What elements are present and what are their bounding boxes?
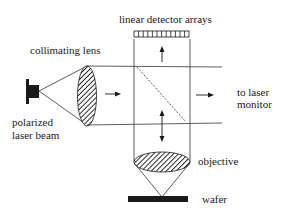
- label-polarized: polarized: [12, 116, 53, 128]
- label-objective: objective: [198, 155, 238, 167]
- arrow-bidirectional: [160, 110, 165, 142]
- collimated-beam: [87, 66, 222, 125]
- arrow-up-detector: [160, 46, 165, 62]
- label-collimating-lens: collimating lens: [30, 44, 101, 56]
- arrow-right-out: [196, 93, 214, 98]
- objective-lens: [134, 152, 190, 172]
- collimating-lens: [78, 66, 97, 126]
- label-detector: linear detector arrays: [119, 13, 212, 25]
- wafer: [128, 196, 188, 202]
- label-monitor: monitor: [237, 98, 272, 110]
- label-to-laser: to laser: [237, 86, 269, 98]
- label-wafer: wafer: [202, 193, 227, 205]
- laser-source: [26, 79, 39, 104]
- arrow-right-in: [105, 92, 121, 97]
- label-laser-beam: laser beam: [12, 129, 59, 141]
- detector-array: [134, 31, 189, 37]
